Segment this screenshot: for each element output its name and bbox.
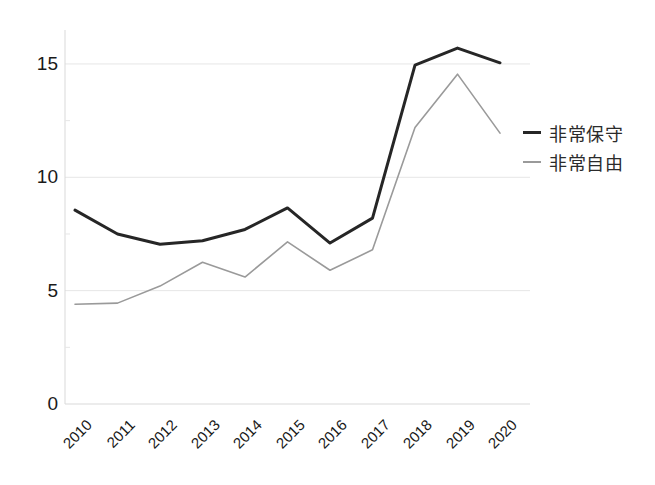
line-chart: 051015 201020112012201320142015201620172…	[0, 0, 655, 485]
legend-label-conservative: 非常保守	[549, 120, 623, 146]
legend-item-liberal[interactable]: 非常自由	[523, 147, 648, 176]
line-swatch-light-icon	[523, 161, 541, 163]
chart-legend: 非常保守 非常自由	[523, 118, 648, 176]
line-swatch-dark-icon	[523, 131, 541, 134]
x-axis: 2010201120122013201420152016201720182019…	[0, 0, 655, 485]
legend-label-liberal: 非常自由	[549, 149, 623, 175]
legend-item-conservative[interactable]: 非常保守	[523, 118, 648, 147]
